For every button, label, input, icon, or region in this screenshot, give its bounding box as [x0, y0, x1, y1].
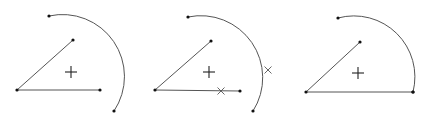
- center-cross-icon: [352, 67, 364, 79]
- diagonal-line: [306, 42, 360, 92]
- endpoint-dot: [336, 16, 339, 19]
- center-cross-icon: [65, 66, 77, 78]
- endpoint-dot: [98, 88, 101, 91]
- endpoint-dot: [186, 15, 189, 18]
- endpoint-dot: [251, 109, 254, 112]
- panel-before: [15, 14, 124, 112]
- endpoint-dot: [238, 89, 241, 92]
- intersection-x-icon: [265, 67, 272, 74]
- center-cross-icon: [203, 66, 215, 78]
- endpoint-dot: [358, 40, 361, 43]
- horizontal-line: [155, 90, 240, 91]
- endpoint-dot: [411, 90, 414, 93]
- diagonal-line: [155, 41, 211, 90]
- endpoint-dot: [112, 109, 115, 112]
- endpoint-dot: [209, 39, 212, 42]
- endpoint-dot: [15, 88, 18, 91]
- panel-after: [304, 16, 415, 94]
- diagonal-line: [17, 40, 73, 90]
- arc: [188, 16, 263, 111]
- endpoint-dot: [71, 38, 74, 41]
- panel-intersection: [153, 15, 271, 112]
- endpoint-dot: [304, 90, 307, 93]
- endpoint-dot: [153, 88, 156, 91]
- arc: [49, 15, 124, 111]
- endpoint-dot: [47, 14, 50, 17]
- arc: [338, 16, 415, 92]
- diagram-canvas: [0, 0, 431, 125]
